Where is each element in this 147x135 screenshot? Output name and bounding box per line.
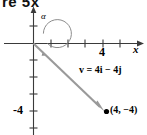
x-axis <box>4 40 144 46</box>
point-coordinate-label: (4, −4) <box>110 105 137 115</box>
vector-equation-label: v = 4i − 4j <box>79 65 122 75</box>
point-marker <box>104 109 109 114</box>
y-tick-label-minus-4: -4 <box>13 104 23 116</box>
angle-label: α <box>41 12 46 21</box>
angle-arc <box>42 20 72 56</box>
x-axis-label: x <box>133 44 139 55</box>
x-tick-label-4: 4 <box>99 46 105 58</box>
vector-arrow <box>34 44 105 112</box>
